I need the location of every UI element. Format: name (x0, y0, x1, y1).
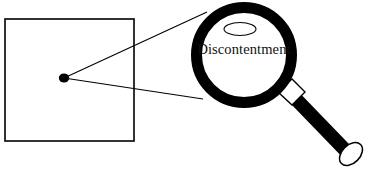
source-rectangle (5, 19, 134, 141)
magnified-word: Discontentment (197, 41, 290, 57)
illustration-root: Discontentment (0, 0, 369, 172)
magnifier-illustration: Discontentment (0, 0, 369, 172)
focus-dot (59, 73, 69, 82)
lens-highlight-ellipse (224, 23, 256, 36)
